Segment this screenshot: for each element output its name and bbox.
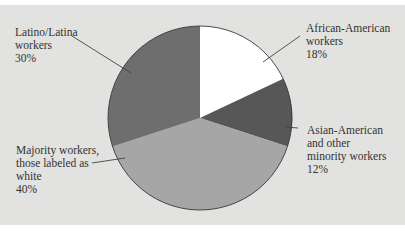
label-asian-american: Asian-American and other minority worker… — [307, 124, 387, 176]
label-asian-american-line1: Asian-American — [307, 124, 387, 137]
label-latino-value: 30% — [15, 52, 78, 65]
label-african-american-line1: African-American — [306, 22, 390, 35]
leader-line-latino — [72, 36, 131, 73]
label-latino: Latino/Latina workers 30% — [15, 26, 78, 65]
pie-slices — [108, 26, 292, 210]
label-latino-line1: Latino/Latina — [15, 26, 78, 39]
label-majority-line3: white — [16, 170, 99, 183]
label-latino-line2: workers — [15, 39, 78, 52]
label-majority-value: 40% — [16, 183, 99, 196]
label-african-american-line2: workers — [306, 35, 390, 48]
label-asian-american-line2: and other — [307, 137, 387, 150]
label-asian-american-line3: minority workers — [307, 150, 387, 163]
label-african-american: African-American workers 18% — [306, 22, 390, 61]
label-majority-line1: Majority workers, — [16, 144, 99, 157]
label-majority-line2: those labeled as — [16, 157, 99, 170]
label-african-american-value: 18% — [306, 48, 390, 61]
label-asian-american-value: 12% — [307, 163, 387, 176]
label-majority: Majority workers, those labeled as white… — [16, 144, 99, 196]
leader-line-african-american — [263, 36, 300, 62]
